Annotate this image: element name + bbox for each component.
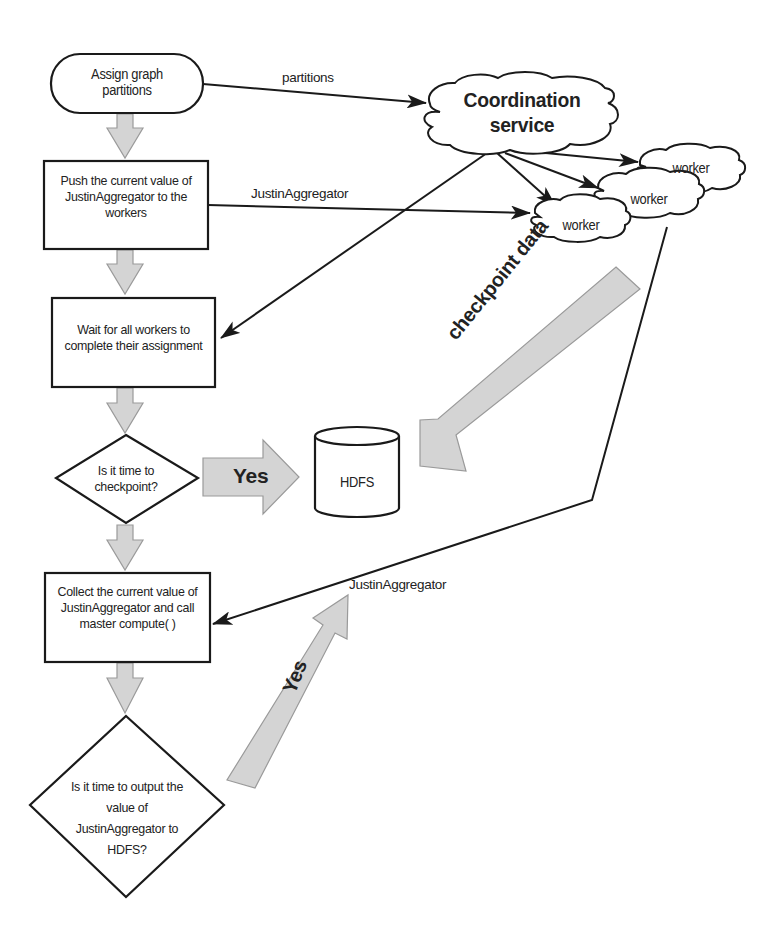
edge-push-aggregator: [208, 205, 530, 213]
edge-coord-to-worker2: [505, 153, 598, 188]
flow-arrow-1: [107, 114, 143, 158]
node-assign-label: Assign graph partitions: [71, 66, 183, 98]
cloud-worker1-label: worker: [659, 160, 723, 176]
checkpoint-data-arrow: [420, 267, 640, 471]
node-wait-label: Wait for all workers to complete their a…: [64, 322, 203, 354]
edge-label-collect-aggregator: JustinAggregator: [349, 577, 446, 592]
edge-label-checkpoint-yes: Yes: [233, 464, 268, 488]
edge-coord-to-wait: [221, 153, 487, 338]
edge-label-push-aggregator: JustinAggregator: [251, 186, 348, 201]
cloud-worker3-label: worker: [550, 217, 613, 233]
flow-arrow-3: [107, 388, 143, 433]
node-checkpoint-decision-label: Is it time to checkpoint?: [86, 463, 167, 495]
node-hdfs-top: [315, 427, 399, 445]
cloud-worker2-label: worker: [617, 191, 681, 207]
flow-arrow-2: [107, 250, 143, 294]
node-push-label: Push the current value of JustinAggregat…: [58, 173, 194, 221]
node-hdfs-label: HDFS: [328, 474, 387, 490]
node-output-decision-label: Is it time to output the value of Justin…: [67, 776, 187, 860]
edge-partitions: [203, 84, 426, 103]
cloud-coordination-label: Coordination service: [463, 87, 581, 137]
edge-label-partitions: partitions: [282, 70, 334, 85]
flow-arrow-4: [107, 525, 143, 570]
node-collect-label: Collect the current value of JustinAggre…: [55, 584, 199, 632]
flow-arrow-5: [107, 663, 143, 713]
